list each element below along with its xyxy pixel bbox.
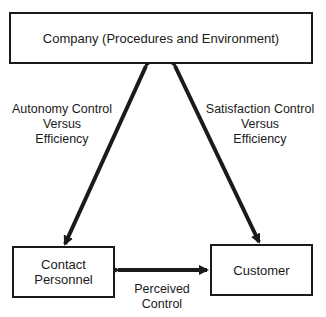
arrow-company-contact bbox=[65, 66, 146, 244]
contact-personnel-label-line1: Contact bbox=[41, 257, 86, 272]
perceived-control-label: Perceived Control bbox=[122, 282, 202, 312]
contact-personnel-label-line2: Personnel bbox=[34, 272, 93, 287]
autonomy-control-label: Autonomy Control Versus Efficiency bbox=[2, 102, 122, 147]
company-label: Company (Procedures and Environment) bbox=[43, 31, 279, 46]
contact-personnel-node: Contact Personnel bbox=[12, 246, 115, 298]
customer-node: Customer bbox=[210, 244, 313, 296]
customer-label: Customer bbox=[233, 263, 289, 278]
satisfaction-control-label: Satisfaction Control Versus Efficiency bbox=[196, 102, 324, 147]
company-node: Company (Procedures and Environment) bbox=[9, 12, 313, 64]
arrow-company-customer bbox=[175, 66, 259, 242]
